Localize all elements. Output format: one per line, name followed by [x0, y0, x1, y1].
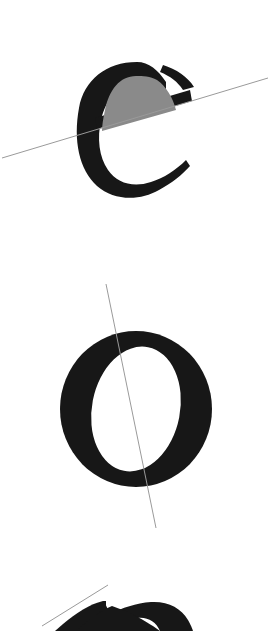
letterform-figure-svg — [0, 0, 269, 631]
figure-page: Letterform stress axis figure — [0, 0, 269, 631]
